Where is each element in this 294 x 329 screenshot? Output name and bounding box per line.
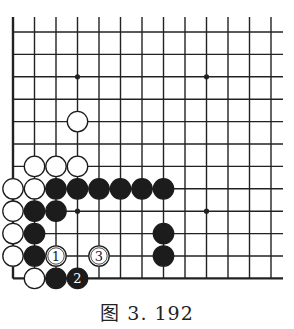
- star-point: [75, 74, 80, 79]
- black-stone: [24, 246, 44, 266]
- white-stone: [24, 268, 44, 288]
- white-stone: [24, 156, 44, 176]
- move-number: 2: [73, 271, 81, 286]
- black-stone: [110, 179, 130, 199]
- black-stone: 2: [67, 268, 87, 288]
- black-stone: [89, 179, 109, 199]
- black-stone: [153, 223, 173, 243]
- go-board: 132: [0, 0, 294, 290]
- white-stone: [3, 246, 23, 266]
- white-stone: [3, 223, 23, 243]
- black-stone: [46, 268, 66, 288]
- move-number: 3: [95, 249, 103, 264]
- white-stone: 3: [89, 246, 109, 266]
- white-stone: [46, 156, 66, 176]
- black-stone: [132, 179, 152, 199]
- black-stone: [67, 179, 87, 199]
- black-stone: [46, 201, 66, 221]
- star-point: [204, 209, 209, 214]
- black-stone: [46, 179, 66, 199]
- white-stone: [67, 156, 87, 176]
- white-stone: [3, 179, 23, 199]
- black-stone: [24, 223, 44, 243]
- star-point: [75, 209, 80, 214]
- black-stone: [153, 246, 173, 266]
- black-stone: [153, 179, 173, 199]
- white-stone: [24, 179, 44, 199]
- black-stone: [24, 201, 44, 221]
- figure-caption: 图 3. 192: [0, 298, 294, 325]
- white-stone: [3, 201, 23, 221]
- board-grid: [13, 17, 283, 278]
- white-stone: [67, 111, 87, 131]
- move-number: 1: [52, 249, 60, 264]
- white-stone: 1: [46, 246, 66, 266]
- star-point: [204, 74, 209, 79]
- stones-layer: 132: [3, 111, 174, 288]
